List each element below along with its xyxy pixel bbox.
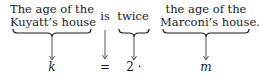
underbrace-marconi [162, 29, 250, 37]
symbol-k: k [42, 61, 62, 74]
phrase-kuyatt-line2: Kuyatt’s house [10, 16, 94, 29]
underbrace-kuyatt [12, 29, 92, 37]
symbol-m: m [194, 61, 218, 74]
symbol-two-times: 2 · [122, 61, 146, 74]
phrase-is: is [96, 10, 114, 23]
phrase-kuyatt-age: The age of the Kuyatt’s house [10, 3, 94, 29]
underbrace-twice [118, 29, 150, 37]
phrase-marconi-age: the age of the Marconi’s house. [160, 3, 252, 29]
phrase-twice: twice [114, 10, 152, 23]
phrase-marconi-line2: Marconi’s house. [160, 16, 252, 29]
symbol-equals: = [95, 61, 115, 74]
arrow-down-marconi [202, 37, 210, 61]
arrow-down-twice [130, 37, 138, 61]
arrow-down-is [101, 30, 109, 60]
arrow-down-kuyatt [48, 37, 56, 61]
